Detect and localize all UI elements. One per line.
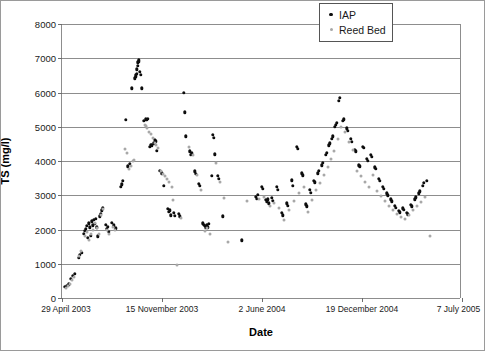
y-axis-tick <box>58 127 62 128</box>
gridline <box>62 161 460 162</box>
data-point <box>358 165 361 168</box>
data-point <box>429 235 432 238</box>
data-point <box>97 232 100 235</box>
y-axis-title: TS (mg/l) <box>0 137 11 184</box>
y-axis-tick-label: 3000 <box>35 190 56 201</box>
data-point <box>374 167 377 170</box>
data-point <box>261 187 264 190</box>
data-point <box>227 240 230 243</box>
data-point <box>410 205 413 208</box>
data-point <box>140 87 143 90</box>
data-point <box>69 282 72 285</box>
data-point <box>213 152 216 155</box>
y-axis-tick-label: 5000 <box>35 121 56 132</box>
data-point <box>296 147 299 150</box>
legend-item-reed-bed: Reed Bed <box>325 22 386 37</box>
data-point <box>120 183 123 186</box>
data-point <box>221 215 224 218</box>
data-point <box>352 149 355 152</box>
y-axis-tick-label: 4000 <box>35 156 56 167</box>
y-axis-tick <box>58 195 62 196</box>
data-point <box>210 174 213 177</box>
x-axis-tick-label: 2 June 2004 <box>239 304 286 314</box>
data-point <box>139 73 142 76</box>
data-point <box>327 166 330 169</box>
data-point <box>380 194 383 197</box>
x-axis-tick <box>362 298 363 302</box>
data-point <box>94 217 97 220</box>
data-point <box>240 239 243 242</box>
data-point <box>130 87 133 90</box>
data-point <box>311 199 314 202</box>
data-point <box>424 196 427 199</box>
data-point <box>128 167 131 170</box>
data-point <box>368 186 371 189</box>
chart-legend: IAP Reed Bed <box>319 3 393 42</box>
legend-item-iap: IAP <box>325 7 386 22</box>
data-point <box>298 192 301 195</box>
y-axis-tick-label: 7000 <box>35 53 56 64</box>
data-point <box>370 155 373 158</box>
y-axis-tick-label: 8000 <box>35 19 56 30</box>
y-axis-tick <box>58 24 62 25</box>
x-axis-tick-label: 29 April 2003 <box>41 304 91 314</box>
data-point <box>184 135 187 138</box>
data-point <box>173 214 176 217</box>
data-point <box>342 118 345 121</box>
data-point <box>198 184 201 187</box>
data-point <box>133 159 136 162</box>
y-axis-tick <box>58 93 62 94</box>
data-point <box>276 188 279 191</box>
data-point <box>263 195 266 198</box>
data-point <box>382 187 385 190</box>
data-point <box>386 194 389 197</box>
x-axis-title: Date <box>61 326 461 338</box>
data-point <box>172 199 175 202</box>
data-point <box>348 140 351 143</box>
data-point <box>330 157 333 160</box>
data-point <box>162 184 165 187</box>
gridline <box>62 58 460 59</box>
data-point <box>390 200 393 203</box>
data-point <box>340 126 343 129</box>
data-point <box>182 91 185 94</box>
data-point <box>392 209 395 212</box>
data-point <box>376 190 379 193</box>
data-point <box>101 207 104 210</box>
data-point <box>384 200 387 203</box>
x-axis-tick <box>462 298 463 302</box>
data-point <box>420 201 423 204</box>
y-axis-tick <box>58 230 62 231</box>
gridline <box>62 127 460 128</box>
data-point <box>360 175 363 178</box>
data-point <box>78 255 81 258</box>
data-point <box>337 138 340 141</box>
x-axis-tick-label: 19 December 2004 <box>326 304 398 314</box>
data-point <box>400 216 403 219</box>
data-point <box>157 146 160 149</box>
legend-marker-icon <box>325 28 337 31</box>
data-point <box>266 198 269 201</box>
data-point <box>325 151 328 154</box>
data-point <box>209 232 212 235</box>
data-point <box>114 229 117 232</box>
data-point <box>124 118 127 121</box>
data-point <box>316 172 319 175</box>
data-point <box>204 229 207 232</box>
data-point <box>71 279 74 282</box>
data-point <box>404 218 407 221</box>
data-point <box>73 275 76 278</box>
legend-label: IAP <box>339 9 356 21</box>
data-point <box>87 238 90 241</box>
y-axis-tick <box>58 161 62 162</box>
data-point <box>107 232 110 235</box>
data-point <box>212 136 215 139</box>
data-point <box>412 209 415 212</box>
data-point <box>323 174 326 177</box>
data-point <box>96 235 99 238</box>
data-point <box>121 179 124 182</box>
x-axis-tick <box>162 298 163 302</box>
data-point <box>152 136 155 139</box>
data-point <box>319 181 322 184</box>
y-axis-tick <box>58 58 62 59</box>
